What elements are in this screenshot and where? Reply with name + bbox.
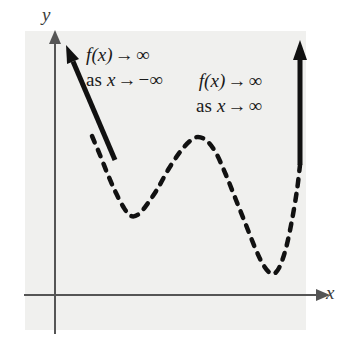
left-as-keyword: as (86, 69, 102, 90)
figure-container: y x f(x)→∞ as x→−∞ f(x)→∞ as x→∞ (0, 0, 347, 347)
x-axis-label: x (326, 282, 334, 304)
left-end-behavior-annotation: f(x)→∞ as x→−∞ (86, 42, 163, 92)
right-function-expression: f(x) (199, 70, 226, 91)
right-limit-value-2: ∞ (249, 95, 263, 116)
right-annotation-line-2: as x→∞ (196, 93, 262, 118)
left-limit-value-2: −∞ (139, 69, 163, 90)
left-annotation-line-2: as x→−∞ (86, 67, 163, 92)
left-arrow-glyph-1: → (113, 44, 136, 65)
y-axis-label: y (42, 4, 50, 26)
left-function-expression: f(x) (86, 44, 113, 65)
right-annotation-line-1: f(x)→∞ (196, 68, 262, 93)
right-arrow-glyph-2: → (225, 95, 248, 116)
left-arrow-glyph-2: → (115, 69, 138, 90)
right-arrow-glyph-1: → (225, 70, 248, 91)
right-limit-value-1: ∞ (249, 70, 263, 91)
left-limit-value-1: ∞ (136, 44, 150, 65)
right-end-behavior-annotation: f(x)→∞ as x→∞ (196, 68, 262, 118)
plot-panel (25, 31, 306, 330)
right-as-keyword: as (196, 95, 212, 116)
graph-canvas (0, 0, 347, 347)
left-annotation-line-1: f(x)→∞ (86, 42, 163, 67)
